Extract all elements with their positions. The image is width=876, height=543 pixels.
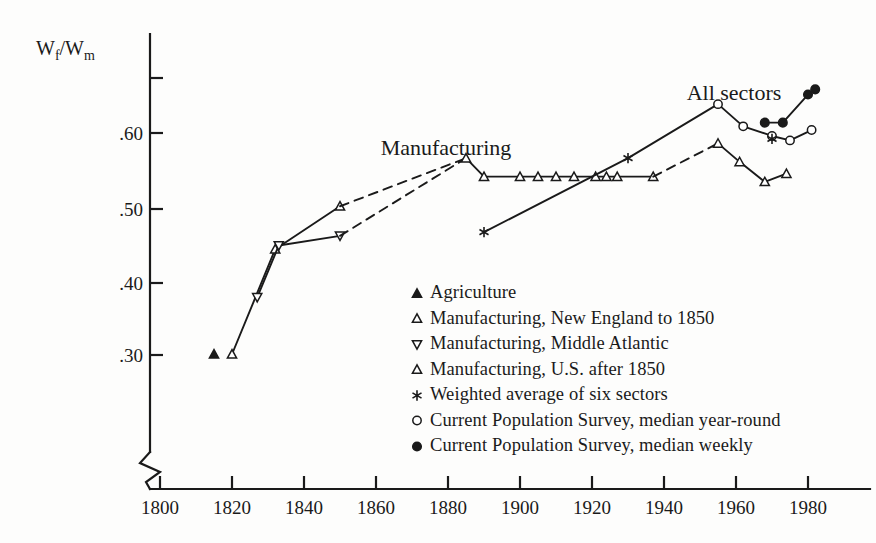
y-tick-label-1: .50	[119, 199, 143, 220]
series-line-9	[628, 104, 718, 158]
series-line-8	[484, 158, 628, 232]
y-axis-break-icon	[140, 452, 160, 489]
series-line-7	[718, 143, 786, 181]
open-circle-icon-shape	[413, 417, 421, 425]
data-point-12-1	[779, 118, 788, 127]
data-point-8-0	[479, 227, 488, 237]
filled-circle-icon-shape	[413, 442, 422, 451]
x-tick-label-1840: 1840	[285, 497, 323, 518]
data-point-1-0	[227, 350, 236, 358]
legend-label: Agriculture	[430, 282, 516, 303]
y-tick-label-0: .60	[119, 123, 143, 144]
chart-page: .60 .50 .40 .30 1800 1820 1840 1860 1880…	[0, 0, 876, 543]
x-tick-label-1980: 1980	[789, 497, 827, 518]
chart-legend: AgricultureManufacturing, New England to…	[404, 280, 834, 459]
series-line-6	[653, 143, 718, 176]
open-triangle-up-icon-shape	[412, 314, 421, 322]
legend-label: Manufacturing, New England to 1850	[430, 308, 714, 329]
legend-item[interactable]: Manufacturing, New England to 1850	[404, 306, 834, 332]
series-line-1	[232, 206, 340, 354]
legend-label: Manufacturing, U.S. after 1850	[430, 359, 665, 380]
legend-marker	[404, 412, 430, 428]
filled-triangle-up-icon	[409, 285, 425, 301]
annotation-all-sectors: All sectors	[687, 80, 782, 105]
data-point-10-4	[807, 126, 815, 134]
filled-triangle-up-icon-shape	[412, 289, 421, 297]
legend-marker	[404, 336, 430, 352]
y-axis-title-sub-m: m	[84, 48, 95, 63]
x-tick-labels: 1800 1820 1840 1860 1880 1900 1920 1940 …	[141, 497, 827, 518]
open-triangle-up-icon	[409, 361, 425, 377]
data-point-10-3	[786, 136, 794, 144]
y-tick-label-2: .40	[119, 273, 143, 294]
y-axis-ticks	[150, 78, 163, 355]
legend-marker	[404, 361, 430, 377]
legend-item[interactable]: Manufacturing, Middle Atlantic	[404, 331, 834, 357]
data-point-7-0	[713, 139, 722, 147]
star-icon	[409, 387, 425, 403]
x-tick-label-1860: 1860	[357, 497, 395, 518]
legend-item[interactable]: Agriculture	[404, 280, 834, 306]
data-point-12-0	[761, 118, 770, 127]
x-tick-label-1820: 1820	[213, 497, 251, 518]
legend-item[interactable]: Manufacturing, U.S. after 1850	[404, 357, 834, 383]
x-tick-label-1900: 1900	[501, 497, 539, 518]
legend-label: Weighted average of six sectors	[430, 384, 668, 405]
legend-label: Current Population Survey, median year-r…	[430, 410, 781, 431]
x-axis-ticks	[160, 476, 808, 489]
chart-canvas: .60 .50 .40 .30 1800 1820 1840 1860 1880…	[0, 0, 876, 543]
annotation-manufacturing: Manufacturing	[381, 135, 512, 160]
legend-item[interactable]: Current Population Survey, median weekly	[404, 433, 834, 459]
legend-marker	[404, 438, 430, 454]
open-triangle-down-icon	[409, 336, 425, 352]
svg-text:Wf/Wm: Wf/Wm	[36, 37, 95, 63]
data-point-10-1	[739, 122, 747, 130]
x-tick-label-1960: 1960	[717, 497, 755, 518]
star-icon-shape	[412, 390, 421, 400]
legend-marker	[404, 310, 430, 326]
y-tick-label-3: .30	[119, 345, 143, 366]
data-point-7-3	[782, 169, 791, 177]
x-tick-label-1880: 1880	[429, 497, 467, 518]
series-line-3	[340, 158, 466, 206]
open-circle-icon	[409, 412, 425, 428]
open-triangle-up-icon-shape	[412, 365, 421, 373]
open-triangle-down-icon-shape	[412, 340, 421, 348]
y-axis-title-slash-w: /W	[60, 37, 85, 59]
open-triangle-up-icon	[409, 310, 425, 326]
legend-marker	[404, 387, 430, 403]
series-line-4	[340, 158, 466, 236]
legend-marker	[404, 285, 430, 301]
series-line-5	[466, 158, 653, 177]
data-point-10-0	[714, 100, 722, 108]
y-axis-title-w1: W	[36, 37, 55, 59]
series-line-2	[257, 236, 340, 297]
x-tick-label-1940: 1940	[645, 497, 683, 518]
data-point-12-3	[811, 85, 820, 94]
y-axis-title: Wf/Wm	[36, 37, 95, 63]
y-tick-labels: .60 .50 .40 .30	[119, 123, 143, 366]
legend-label: Manufacturing, Middle Atlantic	[430, 333, 669, 354]
x-tick-label-1800: 1800	[141, 497, 179, 518]
legend-label: Current Population Survey, median weekly	[430, 435, 753, 456]
filled-circle-icon	[409, 438, 425, 454]
x-tick-label-1920: 1920	[573, 497, 611, 518]
legend-item[interactable]: Current Population Survey, median year-r…	[404, 408, 834, 434]
data-point-0-0	[209, 350, 218, 358]
legend-item[interactable]: Weighted average of six sectors	[404, 382, 834, 408]
